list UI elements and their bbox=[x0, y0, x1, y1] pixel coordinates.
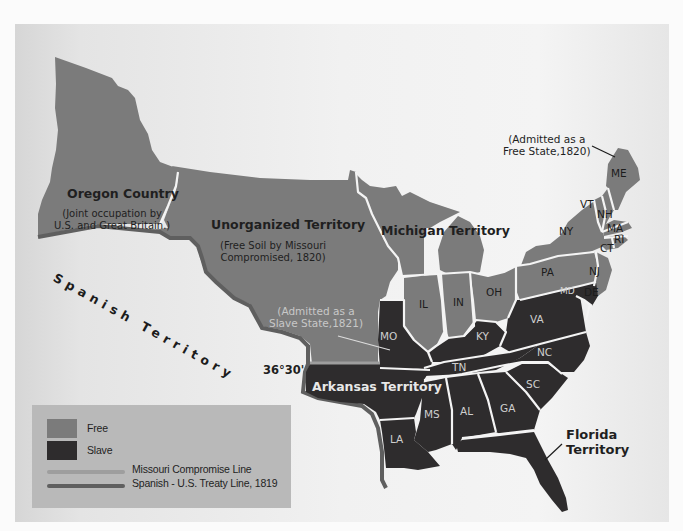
region-florida-territory bbox=[456, 432, 568, 512]
oregon-subtitle-line2: U.S. and Great Britain.) bbox=[54, 220, 170, 232]
maine-note-line1: (Admitted as a bbox=[503, 133, 591, 145]
maine-leader-line bbox=[592, 146, 615, 157]
state-label-nh: NH bbox=[597, 208, 613, 220]
state-label-il: IL bbox=[419, 298, 428, 310]
state-label-tn: TN bbox=[452, 361, 466, 373]
state-label-oh: OH bbox=[486, 286, 502, 298]
legend-treaty-line-icon bbox=[47, 484, 125, 488]
florida-title-line1: Florida bbox=[566, 428, 629, 443]
legend-slave-swatch bbox=[47, 441, 77, 460]
state-label-ga: GA bbox=[500, 402, 515, 414]
state-label-ky: KY bbox=[476, 330, 489, 342]
unorganized-subtitle-line1: (Free Soil by Missouri bbox=[220, 240, 326, 252]
maine-note-line2: Free State,1820) bbox=[503, 145, 591, 157]
state-label-sc: SC bbox=[526, 378, 540, 390]
legend-missouri-line-label: Missouri Compromise Line bbox=[132, 463, 252, 475]
legend-missouri-line-icon bbox=[47, 470, 125, 474]
state-label-ms: MS bbox=[424, 408, 440, 420]
florida-title-line2: Territory bbox=[566, 443, 629, 458]
state-label-ri: RI bbox=[614, 233, 624, 245]
legend-free-swatch bbox=[47, 419, 77, 438]
label-florida-territory: Florida Territory bbox=[566, 428, 629, 458]
maine-admission-note: (Admitted as a Free State,1820) bbox=[503, 133, 591, 157]
state-label-nc: NC bbox=[537, 346, 552, 358]
state-label-nj: NJ bbox=[589, 265, 600, 277]
state-label-va: VA bbox=[530, 313, 544, 325]
label-unorganized-subtitle: (Free Soil by Missouri Compromised, 1820… bbox=[220, 240, 326, 263]
label-michigan-territory: Michigan Territory bbox=[381, 224, 510, 238]
label-arkansas-territory: Arkansas Territory bbox=[312, 380, 442, 394]
oregon-subtitle-line1: (Joint occupation by bbox=[54, 208, 170, 220]
map-legend: Free Slave Missouri Compromise Line Span… bbox=[32, 405, 291, 508]
latitude-label: 36°30' bbox=[263, 364, 304, 377]
florida-leader-line bbox=[545, 444, 562, 460]
state-label-me: ME bbox=[611, 167, 627, 179]
legend-treaty-line-label: Spanish - U.S. Treaty Line, 1819 bbox=[132, 477, 277, 489]
missouri-admission-note: (Admitted as a Slave State,1821) bbox=[269, 305, 363, 329]
state-label-in: IN bbox=[453, 296, 464, 308]
region-unorganized-territory bbox=[150, 166, 398, 364]
state-label-vt: VT bbox=[580, 198, 594, 210]
state-label-mo: MO bbox=[380, 330, 397, 342]
state-label-la: LA bbox=[390, 433, 403, 445]
state-label-pa: PA bbox=[541, 266, 554, 278]
label-unorganized-territory: Unorganized Territory bbox=[211, 218, 365, 232]
legend-free-label: Free bbox=[87, 422, 108, 434]
legend-slave-label: Slave bbox=[87, 444, 112, 456]
label-oregon-country: Oregon Country bbox=[67, 187, 179, 201]
state-label-de: DE bbox=[584, 286, 599, 298]
missouri-note-line2: Slave State,1821) bbox=[269, 317, 363, 329]
state-label-ct: CT bbox=[600, 242, 614, 254]
unorganized-subtitle-line2: Compromised, 1820) bbox=[220, 252, 326, 264]
state-label-ny: NY bbox=[559, 225, 573, 237]
missouri-note-line1: (Admitted as a bbox=[269, 305, 363, 317]
state-label-al: AL bbox=[460, 405, 473, 417]
state-label-md: MD bbox=[560, 286, 575, 296]
label-oregon-subtitle: (Joint occupation by U.S. and Great Brit… bbox=[54, 208, 170, 231]
